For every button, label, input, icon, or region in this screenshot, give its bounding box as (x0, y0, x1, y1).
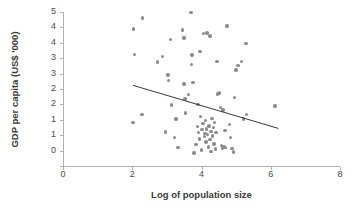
scatter-chart: GDP per capita (US$ '000) Log of populat… (0, 0, 355, 212)
trend-line (0, 0, 355, 212)
